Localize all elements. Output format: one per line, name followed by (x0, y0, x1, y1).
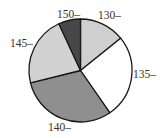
pie-chart: 130–135–140–145–150– (0, 0, 160, 138)
pie-label-140: 140– (48, 121, 71, 133)
pie-label-150: 150– (57, 8, 80, 20)
pie-label-135: 135– (133, 68, 156, 80)
pie-slices (29, 19, 132, 122)
pie-label-130: 130– (98, 9, 121, 21)
pie-label-145: 145– (10, 37, 33, 49)
